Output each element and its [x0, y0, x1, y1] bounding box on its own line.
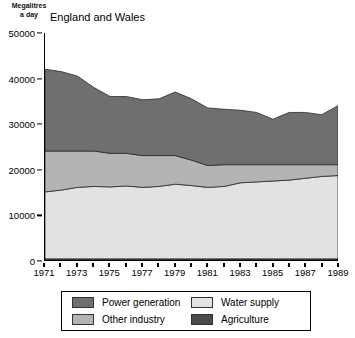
x-axis: 1971197319751977197919811983198519871989	[44, 263, 338, 279]
legend-swatch-power_generation	[72, 297, 94, 308]
y-axis-tick-label: 40000	[9, 73, 35, 84]
x-axis-tick-label: 1989	[327, 267, 348, 278]
y-axis-tick	[37, 169, 42, 170]
y-axis-unit-line2: a day	[2, 11, 56, 20]
legend-item-power_generation: Power generation	[72, 294, 191, 311]
legend-item-agriculture: Agriculture	[191, 311, 310, 328]
chart-subtitle: England and Wales	[50, 11, 145, 23]
legend-label-agriculture: Agriculture	[221, 314, 269, 325]
x-axis-tick	[272, 263, 274, 267]
legend-label-power_generation: Power generation	[102, 297, 180, 308]
area-series-power_generation	[45, 69, 338, 165]
x-axis-tick-label: 1973	[66, 267, 87, 278]
plot-frame	[44, 33, 338, 261]
y-axis-tick-label: 30000	[9, 119, 35, 130]
y-axis-tick	[37, 215, 42, 216]
x-axis-tick	[337, 263, 339, 267]
x-axis-tick	[255, 263, 257, 267]
legend-swatch-other_industry	[72, 314, 94, 325]
x-axis-tick	[304, 263, 306, 267]
x-axis-tick-label: 1971	[33, 267, 54, 278]
y-axis-tick	[37, 124, 42, 125]
legend-swatch-agriculture	[191, 314, 213, 325]
legend-swatch-water_supply	[191, 297, 213, 308]
x-axis-tick-label: 1975	[99, 267, 120, 278]
x-axis-tick	[223, 263, 225, 267]
x-axis-tick	[108, 263, 110, 267]
chart-legend: Power generationWater supplyOther indust…	[61, 291, 311, 331]
x-axis-tick-label: 1977	[131, 267, 152, 278]
x-axis-tick	[206, 263, 208, 267]
y-axis-tick-label: 20000	[9, 164, 35, 175]
x-axis-tick	[92, 263, 94, 267]
x-axis-tick	[59, 263, 61, 267]
x-axis-tick	[125, 263, 127, 267]
x-axis-tick	[157, 263, 159, 267]
x-axis-tick-label: 1979	[164, 267, 185, 278]
x-axis-tick-label: 1983	[229, 267, 250, 278]
y-axis-unit-label: Megalitres a day	[2, 2, 56, 19]
x-axis-tick-label: 1981	[197, 267, 218, 278]
legend-label-water_supply: Water supply	[221, 297, 279, 308]
x-axis-tick	[321, 263, 323, 267]
y-axis-tick	[37, 78, 42, 79]
x-axis-tick	[141, 263, 143, 267]
legend-item-other_industry: Other industry	[72, 311, 191, 328]
legend-label-other_industry: Other industry	[102, 314, 165, 325]
x-axis-tick	[288, 263, 290, 267]
x-axis-tick-label: 1987	[295, 267, 316, 278]
x-axis-tick	[76, 263, 78, 267]
stacked-area-plot	[45, 33, 338, 260]
x-axis-tick	[43, 263, 45, 267]
x-axis-tick-label: 1985	[262, 267, 283, 278]
y-axis-tick-label: 10000	[9, 210, 35, 221]
y-axis-tick-label: 0	[30, 256, 35, 267]
area-series-water_supply	[45, 176, 338, 259]
y-axis-tick	[37, 260, 42, 261]
x-axis-tick	[190, 263, 192, 267]
y-axis: 01000020000300004000050000	[0, 33, 42, 261]
y-axis-tick	[37, 32, 42, 33]
y-axis-unit-line1: Megalitres	[12, 2, 47, 9]
legend-item-water_supply: Water supply	[191, 294, 310, 311]
x-axis-tick	[174, 263, 176, 267]
y-axis-tick-label: 50000	[9, 28, 35, 39]
x-axis-tick	[239, 263, 241, 267]
